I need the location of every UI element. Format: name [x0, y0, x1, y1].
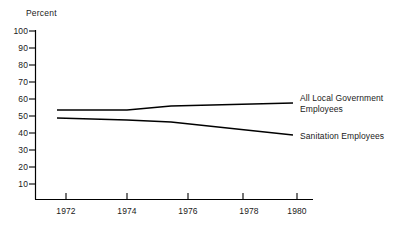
- y-tick-marks: [29, 31, 35, 184]
- series-line-sanitation-employees: [57, 118, 293, 135]
- chart-container: Percent 100 90 80 70 60 50 40 30 20 10 1…: [0, 0, 409, 242]
- series-line-all-local-government-employees: [57, 103, 293, 110]
- x-tick-marks: [66, 193, 297, 199]
- axis-lines: [35, 30, 313, 200]
- series-label-sanitation-employees: Sanitation Employees: [300, 131, 384, 142]
- plot-area: [0, 0, 409, 242]
- series-label-all-local-government-employees: All Local Government Employees: [300, 93, 383, 114]
